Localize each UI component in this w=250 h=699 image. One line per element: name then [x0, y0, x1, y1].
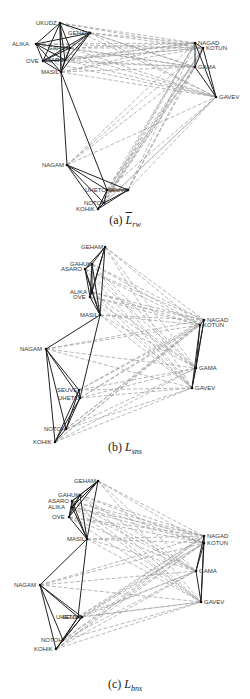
negative-edge [61, 48, 203, 72]
node-dot [91, 291, 94, 294]
node-kotun: KOTUN [203, 540, 228, 546]
positive-edge [67, 165, 104, 203]
caption-symbol: L [124, 677, 131, 691]
negative-edge [63, 543, 204, 640]
negative-edge [80, 388, 192, 398]
node-label: GAVEV [204, 599, 224, 605]
positive-edge [195, 67, 216, 97]
node-kohik: KOHIK [76, 206, 99, 212]
node-label: GEHAM [68, 30, 90, 36]
node-nagam: NAGAM [20, 346, 47, 352]
node-seuve: SEUVE [108, 187, 129, 193]
node-dot [203, 535, 206, 538]
node-label: GAHUK [48, 45, 69, 51]
node-alika: ALIKA [12, 41, 37, 47]
node-label: UKUDZ [36, 20, 57, 26]
node-label: NOTOH [41, 637, 63, 643]
node-label: ALIKA [12, 41, 29, 47]
node-label: NAGAM [42, 162, 64, 168]
node-dot [199, 324, 202, 327]
negative-edge [56, 602, 201, 649]
node-label: KOTUN [203, 322, 224, 328]
positive-edge [36, 23, 60, 44]
negative-edge [69, 517, 196, 571]
node-dot [71, 500, 74, 503]
network-graph: GEHAMGAHUKASAROALIKAOVEMASILNAGAMSEUVEUH… [0, 235, 250, 465]
node-label: ALIKA [48, 504, 65, 510]
node-label: OVE [73, 294, 86, 300]
positive-edge [203, 48, 216, 97]
caption-b: (b) Lsns [0, 440, 250, 456]
negative-edge [79, 320, 204, 390]
negative-edge [85, 269, 192, 388]
negative-edge [67, 97, 216, 165]
caption-prefix: (a) [109, 213, 125, 227]
positive-edge [69, 481, 98, 517]
node-dot [195, 570, 198, 573]
node-ove: OVE [26, 58, 44, 64]
node-dot [35, 43, 38, 46]
node-dot [59, 22, 62, 25]
node-label: GAVEV [219, 94, 239, 100]
node-label: KOTUN [206, 45, 227, 51]
node-dot [104, 246, 107, 249]
node-uheto: UHETO [85, 187, 108, 193]
node-label: GEHAM [74, 478, 96, 484]
node-dot [78, 389, 81, 392]
node-dot [55, 648, 58, 651]
node-seuve: SEUVE [62, 614, 83, 620]
node-dot [84, 268, 87, 271]
node-label: SEUVE [108, 187, 128, 193]
node-dot [89, 296, 92, 299]
node-label: UHETO [85, 187, 106, 193]
node-label: KOHIK [76, 206, 95, 212]
node-kohik: KOHIK [34, 646, 57, 652]
node-dot [99, 314, 102, 317]
negative-edge [107, 48, 203, 190]
negative-edge [65, 60, 195, 67]
node-label: UHETO [58, 395, 79, 401]
node-label: MASIL [80, 312, 99, 318]
node-dot [97, 480, 100, 483]
node-label: NAGAM [20, 346, 42, 352]
node-notoh: NOTOH [44, 426, 67, 432]
caption-c: (c) Lbns [0, 677, 250, 693]
negative-edge [72, 501, 204, 536]
caption-symbol: L [125, 440, 132, 454]
node-dot [64, 59, 67, 62]
node-label: MASIL [41, 69, 60, 75]
node-dot [97, 208, 100, 211]
node-dot [60, 71, 63, 74]
positive-edge [80, 315, 100, 398]
node-label: GEHAM [81, 244, 103, 250]
panel-a: UKUDZGEHAMALIKAGAHUKOVEASAROMASILNAGADKO… [0, 0, 250, 230]
node-geham: GEHAM [68, 30, 91, 36]
node-dot [71, 506, 74, 509]
node-dot [203, 542, 206, 545]
node-label: SEUVE [57, 387, 77, 393]
negative-edge [67, 67, 195, 165]
node-ove: OVE [52, 514, 70, 520]
positive-edge [78, 539, 87, 617]
caption-a: (a) Lrw [0, 213, 250, 229]
negative-edge [46, 349, 196, 368]
node-gavev: GAVEV [191, 385, 216, 391]
network-graph: UKUDZGEHAMALIKAGAHUKOVEASAROMASILNAGADKO… [0, 0, 250, 230]
node-dot [195, 367, 198, 370]
node-ove: OVE [73, 294, 91, 300]
negative-edge [128, 97, 216, 190]
node-label: ASARO [61, 266, 82, 272]
negative-edge [105, 247, 196, 368]
node-dot [203, 319, 206, 322]
panel-b: GEHAMGAHUKASAROALIKAOVEMASILNAGAMSEUVEUH… [0, 235, 250, 465]
negative-edge [90, 297, 200, 325]
node-label: ASARO [43, 57, 64, 63]
node-dot [45, 348, 48, 351]
node-nagad: NAGAD [203, 533, 229, 539]
node-label: OVE [26, 58, 39, 64]
node-asaro: ASARO [43, 57, 66, 63]
node-label: OVE [52, 514, 65, 520]
negative-edge [98, 481, 204, 536]
node-label: GAMA [199, 568, 217, 574]
node-label: KOTUN [207, 540, 228, 546]
